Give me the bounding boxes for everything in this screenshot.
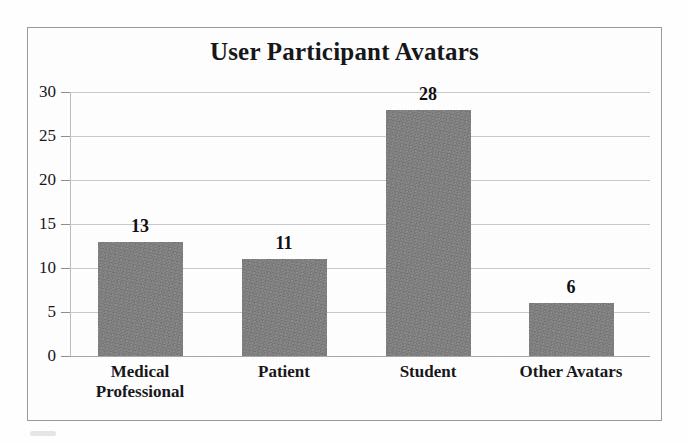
y-axis-tick-label: 25 xyxy=(22,126,56,146)
gridline-20 xyxy=(70,180,650,181)
gridline-30 xyxy=(70,92,650,93)
y-axis-label-group: 051015202530 xyxy=(18,0,56,443)
bar-value-label: 11 xyxy=(275,233,292,254)
bar[interactable] xyxy=(242,259,327,356)
gridline-25 xyxy=(70,136,650,137)
x-axis-category-label: MedicalProfessional xyxy=(96,362,184,402)
x-axis-category-label: Other Avatars xyxy=(520,362,623,382)
gridline-0 xyxy=(70,356,650,357)
bar-value-label: 13 xyxy=(131,216,149,237)
bar-value-label: 28 xyxy=(419,84,437,105)
y-axis-tick-label: 0 xyxy=(22,346,56,366)
bar[interactable] xyxy=(529,303,614,356)
y-tick-mark-0 xyxy=(61,356,70,357)
bar-value-label: 6 xyxy=(567,277,576,298)
bar[interactable] xyxy=(98,242,183,356)
x-axis-category-label-line: Professional xyxy=(96,382,184,402)
y-tick-mark-25 xyxy=(61,136,70,137)
x-axis-category-label: Student xyxy=(400,362,457,382)
y-tick-mark-5 xyxy=(61,312,70,313)
y-tick-mark-20 xyxy=(61,180,70,181)
y-axis-tick-label: 10 xyxy=(22,258,56,278)
bar[interactable] xyxy=(386,110,471,356)
gridline-15 xyxy=(70,224,650,225)
y-tick-mark-30 xyxy=(61,92,70,93)
plot-area xyxy=(70,92,650,356)
chart-title: User Participant Avatars xyxy=(27,38,662,66)
scan-artifact-speck xyxy=(30,431,56,436)
y-axis-tick-label: 30 xyxy=(22,82,56,102)
y-axis-tick-label: 5 xyxy=(22,302,56,322)
y-axis-tick-label: 15 xyxy=(22,214,56,234)
x-axis-category-label: Patient xyxy=(258,362,310,382)
y-tick-mark-10 xyxy=(61,268,70,269)
y-axis-tick-label: 20 xyxy=(22,170,56,190)
y-tick-mark-15 xyxy=(61,224,70,225)
